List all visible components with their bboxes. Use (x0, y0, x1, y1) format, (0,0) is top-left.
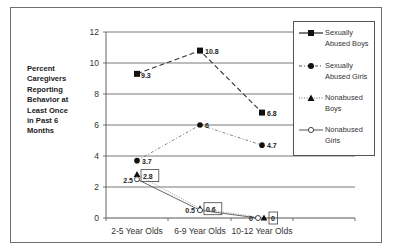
data-label: 10.8 (205, 48, 219, 55)
y-tick-label: 2 (94, 182, 99, 192)
y-tick-label: 8 (94, 89, 99, 99)
legend-label: Abused Boys (325, 39, 369, 48)
data-label: 4.7 (267, 142, 277, 149)
open-circle-marker-icon (256, 216, 261, 221)
legend-label: Nonabused (325, 93, 363, 102)
triangle-marker-icon (297, 93, 327, 107)
data-label: 2.5 (123, 177, 133, 184)
circle-marker-icon (197, 122, 203, 128)
square-marker-icon (297, 28, 327, 42)
y-tick-label: 10 (90, 58, 100, 68)
square-marker-icon (259, 110, 265, 116)
circle-marker-icon (259, 142, 265, 148)
data-label: 9.3 (141, 72, 151, 79)
legend: SexuallyAbused Boys SexuallyAbused Girls… (293, 21, 375, 156)
legend-label: Girls (325, 136, 340, 145)
triangle-marker-icon (134, 171, 141, 177)
open-circle-marker-icon (297, 125, 327, 139)
series-line (137, 179, 258, 218)
data-label: 6 (205, 122, 209, 129)
data-label: 2.8 (143, 173, 153, 180)
circle-marker-icon (134, 158, 140, 164)
data-label: 0 (271, 215, 275, 222)
open-circle-marker-icon (198, 208, 203, 213)
legend-item-sexually-abused-girls: SexuallyAbused Girls (294, 61, 376, 91)
legend-label: Boys (325, 104, 341, 113)
series-line (137, 51, 262, 113)
legend-label: Sexually (325, 61, 353, 70)
y-tick-label: 6 (94, 120, 99, 130)
data-label: 0.5 (185, 207, 195, 214)
y-tick-label: 0 (94, 213, 99, 223)
y-tick-label: 12 (90, 27, 100, 37)
x-tick-label: 6-9 Year Olds (174, 226, 226, 236)
series-line (137, 125, 262, 161)
y-tick-label: 4 (94, 151, 99, 161)
legend-label: Sexually (325, 28, 353, 37)
x-tick-label: 2-5 Year Olds (111, 226, 163, 236)
data-label: 6.8 (267, 110, 277, 117)
data-label: 3.7 (142, 158, 152, 165)
legend-item-nonabused-boys: NonabusedBoys (294, 93, 376, 123)
legend-item-nonabused-girls: NonabusedGirls (294, 125, 376, 155)
square-marker-icon (134, 71, 140, 77)
open-circle-marker-icon (135, 177, 140, 182)
square-marker-icon (197, 48, 203, 54)
legend-item-sexually-abused-boys: SexuallyAbused Boys (294, 28, 376, 58)
circle-marker-icon (297, 61, 327, 75)
legend-label: Abused Girls (325, 72, 367, 81)
legend-label: Nonabused (325, 125, 363, 134)
x-tick-label: 10-12 Year Olds (232, 226, 293, 236)
data-label: 0 (249, 215, 253, 222)
